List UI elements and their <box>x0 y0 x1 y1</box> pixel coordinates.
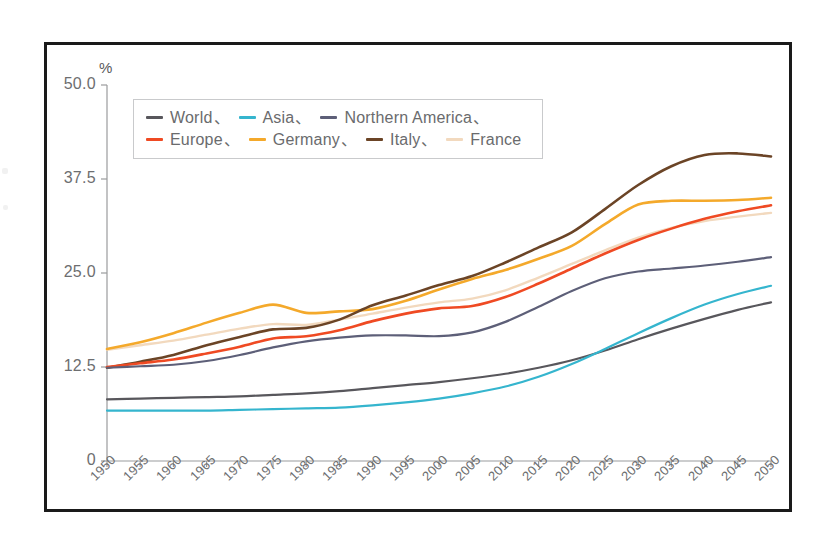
legend-line-swatch-icon <box>446 138 463 141</box>
x-axis-tick-label: 1960 <box>153 452 185 484</box>
x-axis-tick-label: 1970 <box>220 452 252 484</box>
legend-line-swatch-icon <box>239 116 256 119</box>
x-axis-tick-label: 1990 <box>353 452 385 484</box>
x-axis-tick-label: 2000 <box>419 452 451 484</box>
x-axis-tick-label: 2030 <box>618 452 650 484</box>
legend-line-swatch-icon <box>320 116 337 119</box>
legend-item-europe[interactable]: Europe、 <box>146 129 240 151</box>
x-axis-tick-label: 1985 <box>319 452 351 484</box>
x-axis-tick-label: 2035 <box>651 452 683 484</box>
legend-label: Asia <box>263 107 295 129</box>
screenshot-page: % 012.525.037.550.0 19501955196019651970… <box>0 0 832 556</box>
x-axis-tick-label: 2010 <box>485 452 517 484</box>
legend-separator: 、 <box>214 107 230 129</box>
scan-artifact <box>2 168 8 174</box>
x-axis-tick-label: 2050 <box>751 452 783 484</box>
legend-item-germany[interactable]: Germany、 <box>249 129 357 151</box>
legend-label: France <box>470 129 521 151</box>
legend-line-swatch-icon <box>146 116 163 119</box>
chart-figure-frame: % 012.525.037.550.0 19501955196019651970… <box>44 42 792 512</box>
legend-line-swatch-icon <box>146 138 163 141</box>
legend-row: World、Asia、Northern America、 <box>146 107 530 129</box>
legend-line-swatch-icon <box>249 138 266 141</box>
legend-item-world[interactable]: World、 <box>146 107 230 129</box>
x-axis-tick-label: 2025 <box>585 452 617 484</box>
legend-label: World <box>170 107 213 129</box>
x-axis-tick-label: 1975 <box>253 452 285 484</box>
legend-separator: 、 <box>295 107 311 129</box>
legend-label: Germany <box>273 129 340 151</box>
legend-item-northern-america[interactable]: Northern America、 <box>320 107 489 129</box>
x-axis-tick-label: 1955 <box>120 452 152 484</box>
scan-artifact <box>3 205 8 210</box>
legend-separator: 、 <box>421 129 437 151</box>
legend-separator: 、 <box>224 129 240 151</box>
x-axis-tick-label: 1995 <box>386 452 418 484</box>
legend-label: Italy <box>390 129 420 151</box>
x-axis-tick-label: 1950 <box>87 452 119 484</box>
legend-item-france[interactable]: France <box>446 129 521 151</box>
chart-area: % 012.525.037.550.0 19501955196019651970… <box>47 45 789 509</box>
legend-line-swatch-icon <box>366 138 383 141</box>
x-axis-tick-label: 2040 <box>685 452 717 484</box>
x-axis-tick-label: 1980 <box>286 452 318 484</box>
legend-label: Northern America <box>344 107 472 129</box>
legend-separator: 、 <box>341 129 357 151</box>
legend-label: Europe <box>170 129 223 151</box>
x-axis-tick-label: 2045 <box>718 452 750 484</box>
legend-row: Europe、Germany、Italy、France <box>146 129 530 151</box>
legend-item-italy[interactable]: Italy、 <box>366 129 437 151</box>
x-axis-tick-label: 2005 <box>452 452 484 484</box>
x-axis-tick-label: 1965 <box>187 452 219 484</box>
x-axis-tick-label: 2020 <box>552 452 584 484</box>
x-axis-tick-label: 2015 <box>519 452 551 484</box>
chart-legend: World、Asia、Northern America、Europe、Germa… <box>133 99 543 159</box>
legend-separator: 、 <box>473 107 489 129</box>
legend-item-asia[interactable]: Asia、 <box>239 107 312 129</box>
